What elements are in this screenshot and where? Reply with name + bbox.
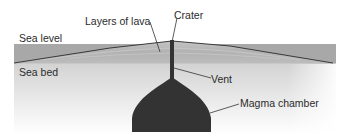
volcano-diagram: Layers of lava Crater Sea level Sea bed … — [0, 0, 345, 137]
label-layers-of-lava: Layers of lava — [85, 15, 151, 27]
vent — [170, 40, 174, 80]
label-crater: Crater — [174, 9, 204, 21]
label-sea-bed: Sea bed — [19, 66, 58, 78]
leader-crater — [172, 18, 177, 42]
label-vent: Vent — [211, 73, 232, 85]
label-sea-level: Sea level — [19, 32, 62, 44]
label-magma-chamber: Magma chamber — [240, 97, 319, 109]
